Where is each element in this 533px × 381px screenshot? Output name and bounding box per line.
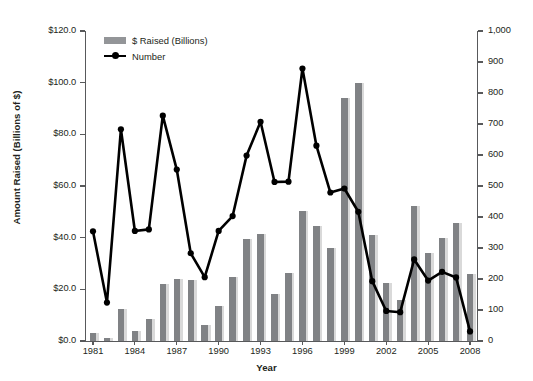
line-marker	[411, 256, 417, 262]
x-tick-label: 1987	[166, 346, 187, 356]
plot-area	[86, 31, 477, 341]
x-tick-label: 1984	[125, 346, 146, 356]
line-marker	[160, 113, 166, 119]
x-tick	[260, 341, 261, 345]
line-marker	[257, 119, 263, 125]
y-right-tick	[478, 30, 483, 31]
x-tick	[386, 341, 387, 345]
y-right-tick-label: 700	[488, 118, 503, 128]
chart-container: Amount Raised (Billions of $) Year $0.0$…	[0, 0, 533, 381]
x-tick-label: 2008	[460, 346, 481, 356]
y-right-tick	[478, 154, 483, 155]
line-marker	[132, 228, 138, 234]
y-right-tick-label: 300	[488, 242, 503, 252]
y-left-tick	[80, 340, 85, 341]
line-marker	[216, 228, 222, 234]
y-left-tick	[80, 82, 85, 83]
y-left-tick-label: $60.0	[53, 180, 76, 190]
y-left-tick	[80, 237, 85, 238]
line-marker	[341, 185, 347, 191]
line-marker	[383, 308, 389, 314]
y-left-tick-label: $20.0	[53, 283, 76, 293]
y-right-tick-label: 600	[488, 149, 503, 159]
x-axis-title: Year	[0, 362, 533, 373]
y-right-tick	[478, 247, 483, 248]
y-left-tick-label: $40.0	[53, 232, 76, 242]
y-right-tick-label: 1,000	[488, 25, 511, 35]
x-axis-line	[85, 341, 478, 342]
x-tick-label: 2005	[418, 346, 439, 356]
line-marker	[174, 166, 180, 172]
y-right-tick	[478, 340, 483, 341]
line-marker	[355, 209, 361, 215]
y-right-tick-label: 100	[488, 304, 503, 314]
line-path	[93, 69, 470, 332]
y-left-tick	[80, 289, 85, 290]
x-tick	[92, 341, 93, 345]
line-marker	[397, 309, 403, 315]
y-right-tick	[478, 278, 483, 279]
legend-item-raised: $ Raised (Billions)	[104, 33, 208, 47]
legend-item-number: Number	[104, 49, 208, 63]
y-left-tick	[80, 30, 85, 31]
chart-legend: $ Raised (Billions) Number	[104, 33, 208, 65]
line-marker	[439, 269, 445, 275]
y-right-tick-label: 800	[488, 87, 503, 97]
x-tick	[428, 341, 429, 345]
y-axis-title: Amount Raised (Billions of $)	[11, 38, 22, 278]
y-right-tick-label: 200	[488, 273, 503, 283]
line-marker	[453, 274, 459, 280]
legend-label-raised: $ Raised (Billions)	[132, 35, 208, 46]
y-right-tick	[478, 123, 483, 124]
x-tick	[302, 341, 303, 345]
y-right-tick	[478, 216, 483, 217]
x-tick-label: 1996	[292, 346, 313, 356]
line-swatch-icon	[104, 52, 126, 61]
y-right-tick	[478, 185, 483, 186]
x-tick-label: 1993	[250, 346, 271, 356]
y-right-tick	[478, 92, 483, 93]
line-marker	[327, 189, 333, 195]
legend-label-number: Number	[132, 51, 165, 62]
x-tick	[344, 341, 345, 345]
line-marker	[243, 153, 249, 159]
line-marker	[299, 65, 305, 71]
x-tick	[134, 341, 135, 345]
x-tick	[218, 341, 219, 345]
line-marker	[230, 213, 236, 219]
y-right-tick-label: 0	[488, 335, 493, 345]
line-marker	[285, 179, 291, 185]
line-marker	[369, 278, 375, 284]
y-left-tick-label: $80.0	[53, 128, 76, 138]
y-left-tick-label: $120.0	[48, 25, 76, 35]
y-left-tick	[80, 134, 85, 135]
line-series-number	[86, 31, 477, 341]
line-marker	[90, 228, 96, 234]
x-tick-label: 1990	[208, 346, 229, 356]
y-left-tick	[80, 185, 85, 186]
x-tick-label: 1981	[83, 346, 104, 356]
y-right-tick-label: 400	[488, 211, 503, 221]
y-left-tick-label: $100.0	[48, 77, 76, 87]
line-marker	[467, 328, 473, 334]
line-marker	[313, 143, 319, 149]
bar-swatch-icon	[104, 37, 126, 44]
y-right-tick	[478, 61, 483, 62]
line-marker	[146, 226, 152, 232]
x-tick-label: 1999	[334, 346, 355, 356]
y-right-tick-label: 500	[488, 180, 503, 190]
y-right-tick-label: 900	[488, 56, 503, 66]
x-tick	[176, 341, 177, 345]
line-marker	[271, 179, 277, 185]
x-tick-label: 2002	[376, 346, 397, 356]
line-marker	[118, 126, 124, 132]
line-marker	[104, 299, 110, 305]
line-marker	[202, 274, 208, 280]
x-tick	[469, 341, 470, 345]
y-left-tick-label: $0.0	[58, 335, 76, 345]
line-marker	[425, 277, 431, 283]
y-right-tick	[478, 309, 483, 310]
line-marker	[188, 250, 194, 256]
